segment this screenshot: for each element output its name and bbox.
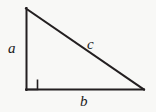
side-label-c: c	[87, 37, 94, 52]
side-label-b: b	[80, 94, 88, 109]
figure-right-triangle: a c b	[0, 0, 156, 112]
hypotenuse-c-line	[26, 9, 144, 90]
right-angle-square-icon	[27, 80, 38, 90]
side-label-a: a	[8, 41, 16, 56]
triangle-drawing	[0, 0, 156, 112]
